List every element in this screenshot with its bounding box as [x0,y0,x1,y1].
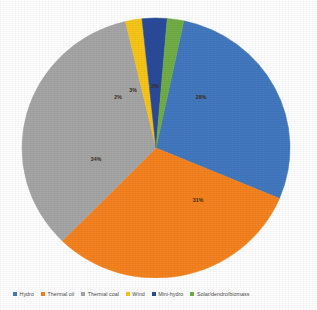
legend-item-hydro[interactable]: Hydro [13,291,34,297]
legend-label-mini-hydro: Mini-hydro [158,291,183,297]
legend-swatch-hydro [13,292,17,296]
legend-swatch-wind [126,292,130,296]
pie-slice-value-mini-hydro: 3% [129,87,137,93]
legend-swatch-thermal-coal [81,292,85,296]
legend-label-thermal-coal: Thermal coal [88,291,119,297]
legend-item-mini-hydro[interactable]: Mini-hydro [152,291,184,297]
legend-item-thermal-coal[interactable]: Thermal coal [81,291,119,297]
pie-chart-figure: 28%31%34%2%3%2% Hydro Thermal oil Therma… [0,0,317,310]
legend-swatch-thermal-oil [41,292,45,296]
legend-item-thermal-oil[interactable]: Thermal oil [41,291,74,297]
legend-swatch-solar-dendro-biomass [190,292,194,296]
chart-legend: Hydro Thermal oil Thermal coal Wind Mini… [0,286,317,302]
legend-label-solar-dendro-biomass: Solar/dendro/biomass [197,291,250,297]
legend-item-solar-dendro-biomass[interactable]: Solar/dendro/biomass [190,291,249,297]
legend-label-thermal-oil: Thermal oil [47,291,74,297]
legend-item-wind[interactable]: Wind [126,291,145,297]
pie-slice-value-thermal-oil: 31% [193,197,204,203]
pie-slice-value-solar-dendro-biomass: 2% [151,83,159,89]
pie-slice-value-thermal-coal: 34% [91,156,102,162]
pie-svg: 28%31%34%2%3%2% [0,6,317,278]
legend-label-wind: Wind [132,291,144,297]
legend-label-hydro: Hydro [20,291,34,297]
pie-slice-value-hydro: 28% [196,94,207,100]
pie-slice-value-wind: 2% [114,94,122,100]
legend-swatch-mini-hydro [152,292,156,296]
pie-plot-area: 28%31%34%2%3%2% [0,6,317,278]
pie-slice-group [22,18,290,278]
